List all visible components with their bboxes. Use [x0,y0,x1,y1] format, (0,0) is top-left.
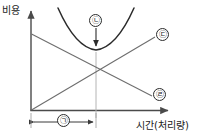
y-axis-label: 비용 [2,6,20,16]
cost-time-diagram: 비용 시간(처리량) ㉡ ㉢ ㉣ ㉠ [0,0,208,138]
diagram-canvas [0,0,208,138]
marker-b-circled-label: ㉡ [89,14,102,27]
marker-a-circled-label: ㉠ [57,114,70,127]
axes [30,11,168,111]
rising-line-c [32,37,156,110]
marker-c-circled-label: ㉢ [156,28,169,41]
marker-d-circled-label: ㉣ [153,88,166,101]
x-axis-label: 시간(처리량) [136,121,189,131]
falling-line-d [32,34,153,96]
series-lines [32,34,156,110]
